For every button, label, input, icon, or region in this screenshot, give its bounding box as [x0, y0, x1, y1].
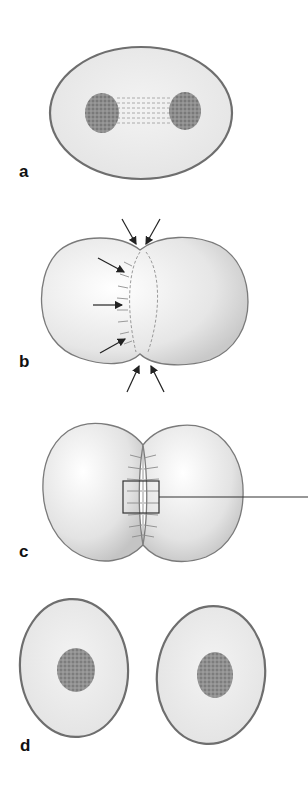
cell-deep-furrow-illustration [0, 405, 308, 585]
daughter-cells-illustration [0, 585, 308, 788]
cell-membrane [50, 47, 232, 179]
right-daughter-lobe [143, 425, 243, 561]
panel-label-d: d [20, 737, 30, 754]
chromatin-mass-left [85, 93, 119, 133]
panel-label-b: b [19, 353, 29, 370]
cell-anaphase-illustration [0, 0, 308, 190]
arrow-icon [127, 366, 139, 392]
left-daughter-lobe [43, 423, 143, 561]
arrow-icon [151, 366, 164, 392]
panel-b: b [0, 190, 308, 405]
nucleus-left [57, 648, 95, 692]
panel-c: c [0, 405, 308, 585]
panel-label-c: c [19, 543, 28, 560]
panel-a: a [0, 0, 308, 190]
nucleus-right [197, 652, 233, 698]
panel-d: d [0, 585, 308, 788]
chromatin-mass-right [169, 92, 201, 130]
arrow-icon [122, 219, 136, 244]
cell-cleavage-illustration [0, 190, 308, 405]
cell-membrane [42, 237, 248, 364]
panel-label-a: a [19, 163, 28, 180]
